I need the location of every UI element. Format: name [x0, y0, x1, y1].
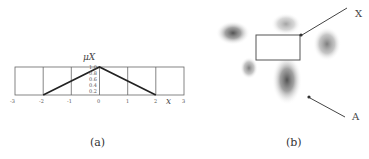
blob-small-left: [240, 57, 258, 79]
point-a-dot: [307, 95, 310, 98]
x-tick: 3: [182, 98, 185, 104]
blob-scene: [200, 0, 369, 159]
blob-lower-center: [272, 55, 302, 105]
label-a: A: [352, 111, 359, 122]
caption-b: (b): [286, 136, 302, 149]
x-tick: 0: [97, 98, 100, 104]
label-x: X: [355, 8, 362, 19]
x-axis-label: x: [166, 96, 171, 106]
region-rectangle: [256, 35, 300, 60]
arrow-to-point-a: [310, 98, 345, 117]
y-axis-label: μX: [83, 52, 95, 62]
x-tick: -1: [67, 98, 72, 104]
blob-upper-center: [271, 13, 301, 35]
x-tick: 2: [154, 98, 157, 104]
blob-upper-left: [216, 21, 250, 45]
grid: [15, 67, 184, 95]
x-tick: 1: [126, 98, 129, 104]
panel-b-blob-image: X A: [200, 0, 369, 159]
arrowhead-dot-x: [299, 33, 302, 36]
blob-right: [313, 27, 341, 61]
x-tick: -2: [39, 98, 44, 104]
x-tick: -3: [10, 98, 15, 104]
y-tick: 0.2: [89, 88, 97, 94]
caption-a: (a): [90, 136, 105, 149]
